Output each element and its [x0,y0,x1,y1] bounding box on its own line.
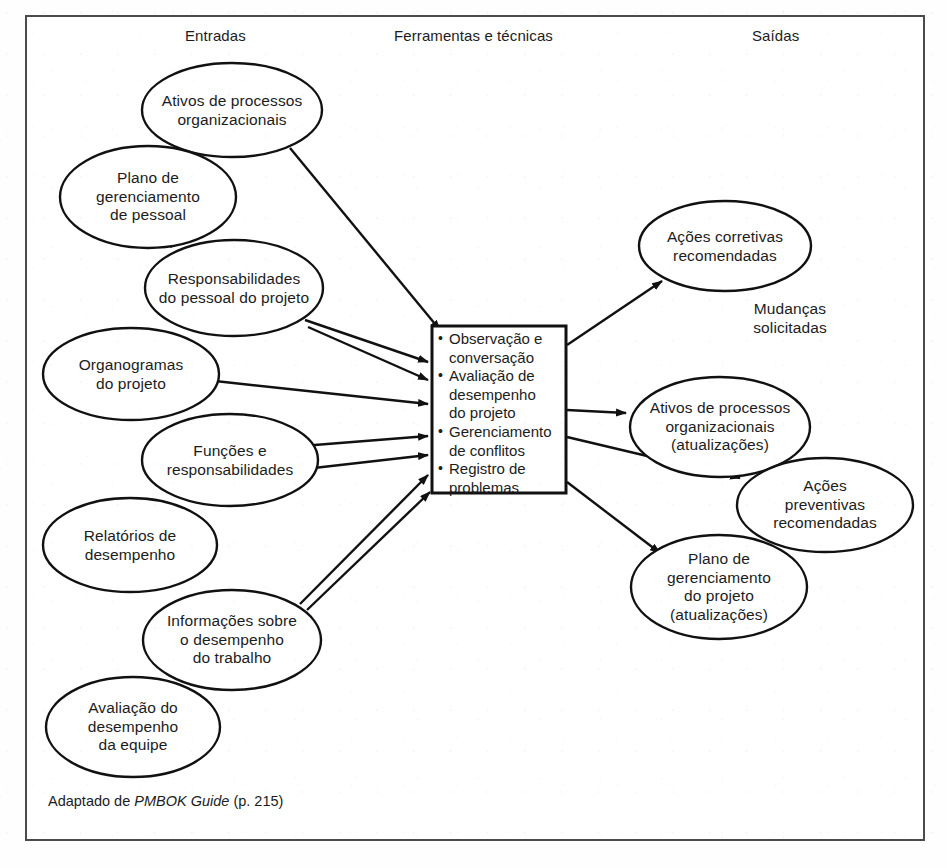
output-arrow-3 [567,482,660,553]
caption-prefix: Adaptado de [48,793,134,809]
input-ellipse-responsabilidades-pessoal-projeto[interactable] [145,240,323,336]
free-label-mudancas-solicitadas: Mudanças solicitadas [753,300,826,337]
input-arrow-5 [305,455,428,469]
input-ellipse-organogramas-projeto[interactable] [43,328,219,420]
tool-item-1: Avaliação de desempenho do projeto [438,367,562,423]
output-ellipse-acoes-corretivas-recomendadas[interactable] [639,201,811,291]
output-arrow-0 [567,281,662,345]
input-arrow-2 [308,327,428,380]
output-ellipse-ativos-processos-organizacionais-atualizacoes[interactable] [630,377,810,477]
input-arrow-4 [302,436,428,446]
tool-item-2: Gerenciamento de conflitos [438,423,562,460]
input-ellipse-informacoes-desempenho-trabalho[interactable] [143,590,321,690]
column-header-ferramentas-tecnicas: Ferramentas e técnicas [394,27,553,44]
input-arrow-6 [300,475,428,604]
tool-item-0: Observação e conversação [438,330,562,367]
caption-source-title: PMBOK Guide [134,793,229,809]
input-ellipse-avaliacao-desempenho-equipe[interactable] [46,677,220,777]
input-ellipse-plano-gerenciamento-pessoal[interactable] [60,146,236,248]
tool-item-3: Registro de problemas [438,460,562,497]
output-ellipse-acoes-preventivas-recomendadas[interactable] [737,458,913,552]
input-ellipse-funcoes-responsabilidades[interactable] [142,414,318,506]
input-ellipse-ativos-processos-organizacionais[interactable] [142,63,322,157]
figure-page: Entradas Ferramentas e técnicas Saídas A… [0,0,947,868]
caption-suffix: (p. 215) [229,793,283,809]
figure-caption: Adaptado de PMBOK Guide (p. 215) [48,793,283,809]
ferramentas-tecnicas-list: Observação e conversaçãoAvaliação de des… [438,330,562,497]
input-arrow-1 [305,320,428,362]
output-arrow-1 [567,410,626,413]
column-header-entradas: Entradas [185,27,246,44]
column-header-saidas: Saídas [752,27,799,44]
input-ellipse-relatorios-desempenho[interactable] [43,498,217,592]
input-arrow-7 [307,492,430,610]
output-ellipse-plano-gerenciamento-projeto-atualizacoes[interactable] [631,535,807,639]
input-arrow-3 [215,381,428,404]
